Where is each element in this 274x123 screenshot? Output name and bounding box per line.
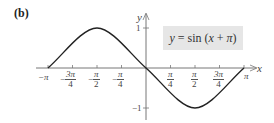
y-axis-label: y	[137, 11, 142, 23]
equation-label-box: y = sin (x + π)	[163, 26, 243, 50]
x-tick-label-3pi-4: 3π4	[213, 70, 224, 89]
x-tick-label-neg-pi-2: − π2	[88, 70, 100, 89]
equation-close: )	[233, 31, 237, 46]
y-tick-label-neg1: −1	[132, 104, 142, 113]
fraction: π2	[191, 70, 198, 89]
equation-plus: +	[214, 31, 227, 46]
fraction: 3π4	[213, 70, 224, 89]
x-tick-label-pi-2: π2	[191, 70, 198, 89]
fraction-denominator: 4	[68, 80, 73, 89]
x-tick-label-neg-3pi-4: − 3π4	[60, 70, 76, 89]
x-tick-label-pi-4: π4	[167, 70, 174, 89]
x-tick-label-neg-pi-4: − π4	[112, 70, 124, 89]
x-tick-label-pi: π	[244, 72, 249, 81]
x-tick-label-neg-pi: −π	[38, 73, 49, 82]
fraction: π2	[93, 70, 100, 89]
y-tick-label-1: 1	[136, 24, 141, 33]
fraction-denominator: 4	[216, 80, 221, 89]
fraction-denominator: 2	[192, 80, 197, 89]
fraction: 3π4	[65, 70, 76, 89]
fraction: π4	[167, 70, 174, 89]
panel-label: (b)	[14, 6, 29, 21]
fraction-denominator: 4	[118, 80, 123, 89]
fraction-denominator: 4	[168, 80, 173, 89]
x-axis-label: x	[257, 62, 262, 74]
fraction-denominator: 2	[94, 80, 99, 89]
equation-func: = sin (	[175, 31, 209, 46]
fraction: π4	[117, 70, 124, 89]
